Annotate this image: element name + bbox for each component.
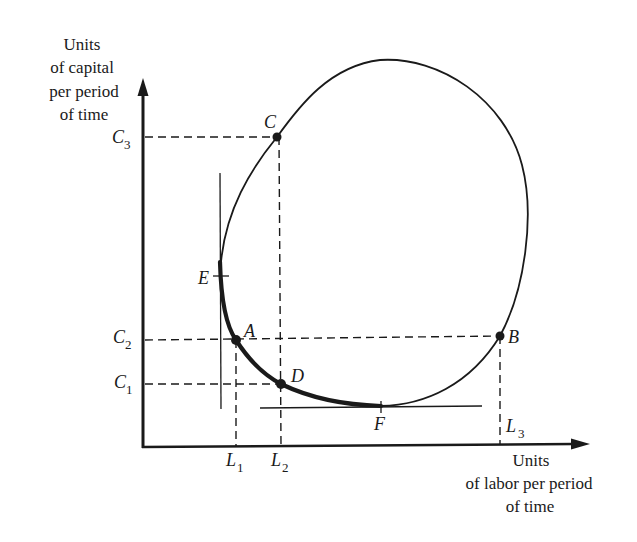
label-a: A — [243, 321, 256, 341]
y-tick-c3: C3 — [112, 127, 131, 152]
point-c — [273, 133, 282, 142]
x-axis-title-line-2: of labor per period — [466, 474, 593, 493]
y-axis-arrow-icon — [138, 78, 149, 96]
isoquant-diagram: Units of capital per period of time Unit… — [0, 0, 637, 542]
y-axis-title: Units of capital per period of time — [49, 35, 119, 124]
x-axis-title-line-3: of time — [506, 497, 555, 516]
points — [231, 133, 505, 390]
label-b: B — [508, 327, 519, 347]
tangent-lines — [213, 173, 482, 413]
label-f: F — [373, 414, 386, 434]
point-a — [231, 335, 241, 345]
x-axis-title: Units of labor per period of time — [466, 451, 593, 516]
axes — [138, 78, 591, 450]
x-axis-arrow-icon — [571, 439, 590, 450]
y-axis-title-line-1: Units — [64, 35, 101, 54]
c2-dashed-line — [145, 336, 500, 340]
point-b — [496, 332, 505, 341]
l2-dashed-line — [279, 137, 281, 446]
y-tick-labels: C3 C2 C1 — [112, 127, 133, 397]
point-labels: C E A D F B — [197, 112, 519, 434]
x-axis — [142, 444, 574, 447]
y-axis-title-line-4: of time — [60, 105, 109, 124]
label-e: E — [197, 268, 209, 288]
x-tick-l3: L3 — [505, 416, 525, 441]
y-axis-title-line-3: per period — [49, 82, 119, 101]
y-tick-c2: C2 — [113, 327, 132, 352]
x-tick-l2: L2 — [270, 450, 289, 475]
x-axis-title-line-1: Units — [513, 451, 550, 470]
point-d — [276, 379, 286, 389]
label-c: C — [264, 112, 277, 132]
x-tick-l1: L1 — [225, 450, 244, 475]
y-tick-c1: C1 — [114, 372, 133, 397]
label-d: D — [290, 366, 304, 386]
y-axis-title-line-2: of capital — [50, 58, 114, 77]
